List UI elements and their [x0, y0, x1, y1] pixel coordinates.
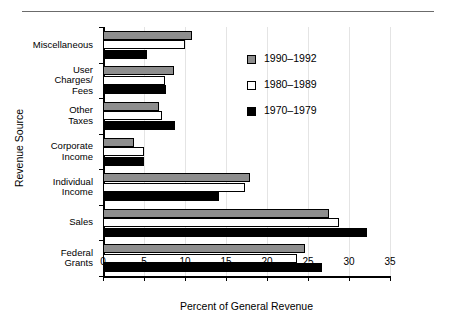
gridline [144, 27, 145, 276]
bar [103, 138, 134, 147]
plot-area [103, 27, 390, 276]
y-tick-mark [99, 98, 105, 99]
x-axis-line [103, 276, 390, 278]
x-tick-label: 25 [302, 256, 313, 267]
gridline [185, 27, 186, 276]
gridline [390, 27, 391, 276]
legend-label: 1970–1979 [264, 104, 317, 116]
bar [103, 102, 159, 111]
y-tick-mark [99, 205, 105, 206]
cut-off-header-text [28, 0, 358, 5]
chart-figure: MiscellaneousUserCharges/FeesOtherTaxesC… [0, 0, 452, 331]
bar [103, 192, 219, 201]
header-divider [22, 11, 434, 12]
category-label: FederalGrants [1, 248, 93, 269]
x-tick-mark [390, 276, 391, 281]
x-tick-mark [308, 276, 309, 281]
bar [103, 31, 192, 40]
x-tick-label: 5 [141, 256, 147, 267]
bar [103, 40, 185, 49]
bar [103, 111, 162, 120]
x-tick-mark [226, 276, 227, 281]
legend-swatch-gray [247, 55, 256, 64]
x-tick-label: 20 [261, 256, 272, 267]
y-tick-mark [99, 63, 105, 64]
bar [103, 228, 367, 237]
bar [103, 147, 144, 156]
legend-label: 1990–1992 [264, 52, 317, 64]
bar [103, 85, 166, 94]
legend-swatch-black [247, 107, 256, 116]
y-tick-mark [99, 276, 105, 277]
x-tick-label: 30 [343, 256, 354, 267]
y-axis-title: Revenue Source [13, 83, 25, 213]
legend-swatch-white [247, 81, 256, 90]
category-label: Miscellaneous [1, 40, 93, 51]
gridline [267, 27, 268, 276]
x-axis-title: Percent of General Revenue [103, 300, 390, 312]
x-tick-label: 10 [179, 256, 190, 267]
legend-label: 1980–1989 [264, 78, 317, 90]
x-tick-label: 15 [220, 256, 231, 267]
y-tick-mark [99, 169, 105, 170]
x-tick-label: 0 [100, 256, 106, 267]
bar [103, 218, 339, 227]
x-tick-mark [267, 276, 268, 281]
bar [103, 50, 147, 59]
gridline [308, 27, 309, 276]
x-tick-mark [185, 276, 186, 281]
bar [103, 173, 250, 182]
bar [103, 183, 245, 192]
bar [103, 76, 165, 85]
x-tick-label: 35 [384, 256, 395, 267]
bar [103, 157, 144, 166]
y-tick-mark [99, 27, 105, 28]
gridline [349, 27, 350, 276]
bar [103, 244, 305, 253]
y-tick-mark [99, 134, 105, 135]
bar [103, 209, 329, 218]
bar [103, 66, 174, 75]
y-tick-mark [99, 240, 105, 241]
category-label: Sales [1, 217, 93, 228]
x-tick-mark [349, 276, 350, 281]
bar [103, 121, 175, 130]
gridline [226, 27, 227, 276]
x-tick-mark [144, 276, 145, 281]
bar [103, 263, 322, 272]
